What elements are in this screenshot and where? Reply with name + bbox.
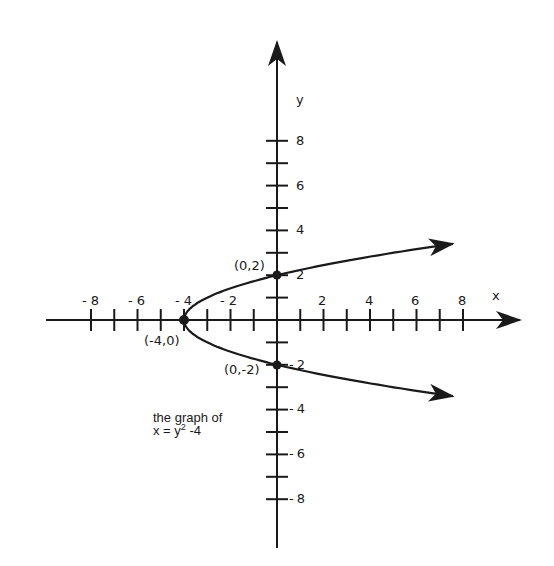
- x-tick-label: - 8: [82, 293, 99, 308]
- x-axis-label: x: [492, 288, 500, 303]
- y-tick-label-neg: -4: [289, 401, 305, 416]
- x-tick-label: - 2: [220, 293, 237, 308]
- point-neg4-0: [179, 315, 189, 325]
- point-0-neg2: [273, 361, 282, 370]
- x-tick-label: 8: [458, 293, 466, 308]
- point-label-0-neg2: (0,-2): [224, 362, 260, 377]
- point-0-2: [273, 271, 282, 280]
- y-tick-label: 4: [296, 222, 304, 237]
- x-tick-labels: - 8 - 6 - 4 - 2 2 4 6 8: [82, 293, 466, 308]
- graph-caption: the graph of x = y2 -4: [153, 410, 223, 438]
- point-label-0-2: (0,2): [234, 258, 265, 273]
- x-tick-label: 2: [318, 293, 326, 308]
- parabola-curve: [184, 244, 453, 320]
- x-tick-label: 6: [411, 293, 419, 308]
- x-tick-label: - 4: [175, 293, 192, 308]
- graph-canvas: - 8 - 6 - 4 - 2 2 4 6 8 x y 2 4 6 8 -2 -…: [0, 0, 554, 566]
- y-tick-label: 6: [296, 178, 304, 193]
- point-label-neg4-0: (-4,0): [144, 333, 180, 348]
- y-tick-label-neg: -6: [289, 446, 305, 461]
- x-tick-label: 4: [365, 293, 373, 308]
- parabola-curve-lower: [184, 320, 453, 396]
- y-axis-label: y: [296, 92, 304, 107]
- caption-line-2: x = y2 -4: [153, 422, 201, 438]
- y-tick-label-neg: -8: [289, 491, 305, 506]
- y-tick-label: 8: [296, 133, 304, 148]
- x-tick-label: - 6: [128, 293, 145, 308]
